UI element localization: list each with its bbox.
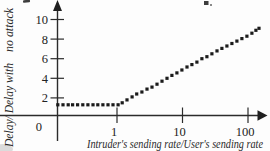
- x-ticks: 110100: [111, 108, 255, 139]
- data-point: [117, 103, 120, 106]
- y-axis: [53, 0, 62, 141]
- y-tick-label: 10: [36, 13, 49, 27]
- data-point: [215, 49, 218, 52]
- data-point: [67, 103, 70, 106]
- data-point: [150, 86, 153, 89]
- data-point: [165, 77, 168, 80]
- data-point: [91, 103, 94, 106]
- data-point: [71, 103, 74, 106]
- y-tick-label: 8: [42, 33, 48, 47]
- y-tick-label: 2: [42, 91, 48, 105]
- x-axis-title: Intruder's sending rate/User's sending r…: [86, 138, 263, 151]
- data-point: [200, 57, 203, 60]
- data-point: [257, 27, 260, 30]
- data-point: [195, 61, 198, 64]
- data-point: [210, 52, 213, 55]
- data-point: [254, 29, 257, 32]
- y-axis-title-part2: no attack: [3, 7, 15, 52]
- data-point: [106, 103, 109, 106]
- data-point: [235, 40, 238, 43]
- data-point: [145, 88, 148, 91]
- data-point: [125, 98, 128, 101]
- scan-artifact: [210, 4, 212, 6]
- origin-tick-label: 0: [36, 120, 42, 134]
- data-point: [135, 92, 138, 95]
- data-point: [81, 103, 84, 106]
- data-point: [56, 103, 59, 106]
- delay-vs-rate-chart: 246810 110100 0 Intruder's sending rate/…: [0, 0, 270, 151]
- y-ticks: 246810: [36, 13, 65, 105]
- data-point: [140, 90, 143, 93]
- data-point: [101, 103, 104, 106]
- y-tick-label: 6: [42, 52, 48, 66]
- x-tick-label: 100: [236, 125, 255, 139]
- data-point: [230, 42, 233, 45]
- y-axis-title-part1: Delay/ Delay with: [3, 63, 16, 148]
- data-point: [170, 74, 173, 77]
- data-point: [175, 71, 178, 74]
- data-point: [240, 37, 243, 40]
- data-point: [121, 101, 124, 104]
- data-point: [86, 103, 89, 106]
- data-point: [220, 47, 223, 50]
- scan-artifact: [204, 1, 209, 5]
- data-point: [250, 32, 253, 35]
- data-point: [131, 95, 134, 98]
- scanned-figure: 246810 110100 0 Intruder's sending rate/…: [0, 0, 270, 151]
- data-point: [96, 103, 99, 106]
- data-point: [225, 44, 228, 47]
- data-point: [205, 55, 208, 58]
- scan-artifact: [23, 0, 30, 3]
- data-point: [111, 103, 114, 106]
- data-point: [180, 68, 183, 71]
- data-point: [190, 63, 193, 66]
- data-point: [185, 65, 188, 68]
- curve-dotted-series: [56, 27, 260, 107]
- data-point: [160, 80, 163, 83]
- y-axis-arrow-icon: [53, 0, 62, 11]
- x-tick-label: 10: [173, 125, 186, 139]
- data-point: [245, 35, 248, 38]
- data-point: [155, 83, 158, 86]
- x-tick-label: 1: [111, 125, 117, 139]
- data-point: [61, 103, 64, 106]
- data-point: [76, 103, 79, 106]
- x-axis-arrow-icon: [258, 110, 268, 120]
- y-tick-label: 4: [42, 72, 49, 86]
